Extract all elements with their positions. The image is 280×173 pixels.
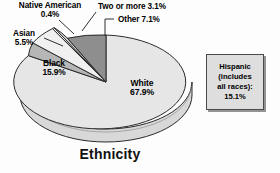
hispanic-note-line-1: Hispanic bbox=[219, 62, 251, 72]
slice-label-white: White 67.9% bbox=[118, 79, 166, 97]
hispanic-note-line-3: all races): bbox=[217, 82, 252, 92]
slice-label-asian: Asian 5.5% bbox=[4, 30, 44, 47]
leader-line-other bbox=[105, 19, 114, 36]
slice-label-native-american-value: 0.4% bbox=[8, 11, 92, 20]
slice-label-black: Black 15.9% bbox=[31, 59, 77, 77]
chart-title: Ethnicity bbox=[40, 146, 180, 162]
slice-label-black-value: 15.9% bbox=[31, 68, 77, 77]
hispanic-note-line-4: 15.1% bbox=[224, 92, 246, 102]
hispanic-note-line-2: (includes bbox=[218, 72, 251, 82]
slice-label-two-or-more: Two or more 3.1% bbox=[98, 3, 166, 12]
hispanic-note-box: Hispanic (includes all races): 15.1% bbox=[206, 54, 264, 110]
slice-label-other: Other 7.1% bbox=[118, 16, 160, 25]
pie-chart-figure: Native American 0.4% Asian 5.5% Two or m… bbox=[0, 0, 280, 173]
slice-label-white-value: 67.9% bbox=[118, 88, 166, 97]
slice-label-native-american: Native American 0.4% bbox=[8, 2, 92, 19]
slice-label-asian-value: 5.5% bbox=[4, 39, 44, 48]
